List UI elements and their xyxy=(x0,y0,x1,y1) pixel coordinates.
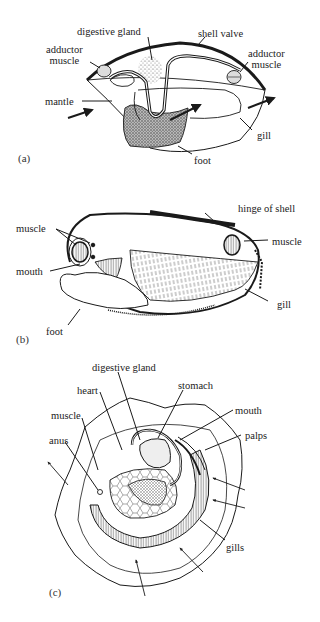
label-b-mouth: mouth xyxy=(16,266,43,277)
label-c-digestive-gland: digestive gland xyxy=(92,362,156,373)
label-b-foot: foot xyxy=(46,326,63,337)
label-c-anus: anus xyxy=(49,435,68,446)
bivalve-diagram-canvas xyxy=(0,0,320,622)
label-b-gill: gill xyxy=(277,299,291,310)
label-a-adductor-muscle-right: adductor muscle xyxy=(248,48,285,70)
label-b-hinge-of-shell: hinge of shell xyxy=(238,203,295,214)
panel-label-b: (b) xyxy=(16,333,29,345)
label-a-gill: gill xyxy=(257,130,271,141)
panel-label-a: (a) xyxy=(18,152,30,164)
label-a-adductor-muscle-left: adductor muscle xyxy=(46,44,83,66)
panel-c-drawing xyxy=(48,372,245,596)
label-a-digestive-gland: digestive gland xyxy=(77,26,141,37)
label-c-palps: palps xyxy=(245,430,267,441)
panel-label-c: (c) xyxy=(49,586,61,598)
label-c-mouth: mouth xyxy=(235,405,262,416)
label-c-heart: heart xyxy=(77,385,98,396)
label-c-muscle: muscle xyxy=(51,410,81,421)
label-a-shell-valve: shell valve xyxy=(198,28,243,39)
label-c-stomach: stomach xyxy=(178,380,213,391)
panel-a-drawing xyxy=(68,37,274,154)
label-a-foot: foot xyxy=(194,155,211,166)
label-c-gills: gills xyxy=(226,542,244,553)
label-b-muscle-left: muscle xyxy=(16,223,46,234)
label-a-mantle: mantle xyxy=(45,96,74,107)
label-b-muscle-right: muscle xyxy=(272,236,302,247)
panel-b-drawing xyxy=(50,212,268,325)
